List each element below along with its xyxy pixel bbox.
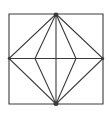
bottom-vertex-dot: [54, 101, 59, 106]
figure-svg: [0, 0, 109, 113]
left-midpoint-dot: [8, 57, 11, 60]
top-vertex-dot: [54, 13, 59, 18]
right-midpoint-dot: [101, 57, 104, 60]
geometric-figure: [0, 0, 109, 113]
